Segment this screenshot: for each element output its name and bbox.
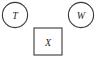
node-x[interactable]: X: [34, 28, 62, 55]
node-t[interactable]: T: [2, 2, 27, 27]
node-w[interactable]: W: [68, 2, 93, 27]
diagram-svg: T W X: [0, 0, 98, 59]
node-label-x: X: [44, 37, 52, 48]
diagram-canvas: T W X: [0, 0, 98, 59]
